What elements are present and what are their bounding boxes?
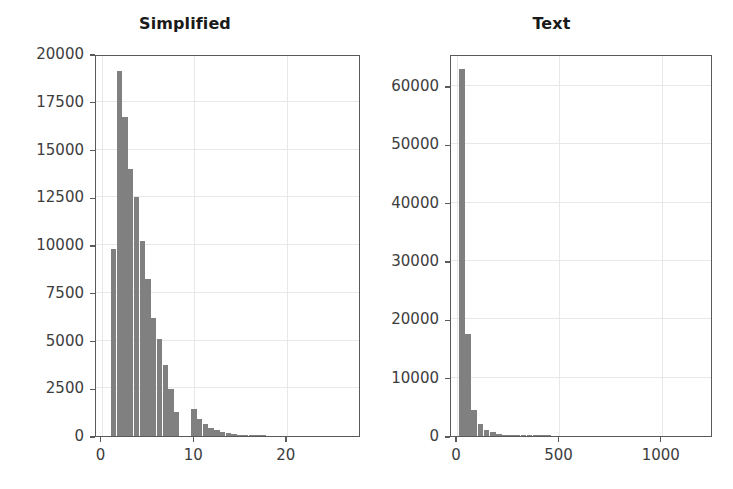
histogram-bar xyxy=(249,435,254,436)
y-tick-mark xyxy=(445,261,450,262)
histogram-bar xyxy=(191,409,196,436)
histogram-figure: Simplified 02500500075001000012500150001… xyxy=(0,0,733,489)
histogram-bar xyxy=(243,435,248,436)
y-tick-label: 10000 xyxy=(370,371,439,386)
y-tick-label: 2500 xyxy=(0,381,84,396)
histogram-bar xyxy=(231,434,236,436)
y-tick-label: 15000 xyxy=(0,143,84,158)
histogram-bar xyxy=(151,318,156,436)
y-tick-mark xyxy=(445,436,450,437)
chart-title-text: Text xyxy=(370,14,733,33)
histogram-bar xyxy=(214,430,219,436)
y-tick-label: 10000 xyxy=(0,238,84,253)
histogram-bar xyxy=(163,365,168,436)
histogram-bar xyxy=(203,424,208,436)
y-tick-mark xyxy=(445,320,450,321)
histogram-bar xyxy=(484,430,490,436)
histogram-bar xyxy=(508,435,514,436)
y-tick-mark xyxy=(445,378,450,379)
histogram-bar xyxy=(111,249,116,436)
bar-series-simplified xyxy=(96,56,359,436)
plot-area-simplified xyxy=(95,55,360,437)
histogram-bar xyxy=(533,435,539,436)
y-tick-label: 20000 xyxy=(0,47,84,62)
histogram-bar xyxy=(128,169,133,436)
bar-series-text xyxy=(451,56,711,436)
histogram-bar xyxy=(220,432,225,436)
histogram-bar xyxy=(157,339,162,436)
y-tick-label: 0 xyxy=(370,429,439,444)
histogram-bar xyxy=(254,435,259,436)
y-tick-label: 60000 xyxy=(370,79,439,94)
chart-panel-text: Text 0100002000030000400005000060000 050… xyxy=(370,0,733,489)
y-tick-mark xyxy=(90,102,95,103)
y-tick-mark xyxy=(445,203,450,204)
x-tick-mark xyxy=(100,437,101,442)
histogram-bar xyxy=(208,428,213,436)
x-tick-mark xyxy=(193,437,194,442)
histogram-bar xyxy=(459,69,465,436)
histogram-bar xyxy=(465,334,471,436)
histogram-bar xyxy=(174,412,179,436)
y-tick-label: 7500 xyxy=(0,286,84,301)
histogram-bar xyxy=(117,71,122,436)
histogram-bar xyxy=(490,432,496,436)
chart-panel-simplified: Simplified 02500500075001000012500150001… xyxy=(0,0,370,489)
y-tick-label: 40000 xyxy=(370,196,439,211)
histogram-bar xyxy=(168,389,173,436)
y-tick-mark xyxy=(90,436,95,437)
histogram-bar xyxy=(514,435,520,436)
y-tick-label: 12500 xyxy=(0,190,84,205)
histogram-bar xyxy=(478,424,484,436)
y-tick-mark xyxy=(90,150,95,151)
histogram-bar xyxy=(145,279,150,436)
histogram-bar xyxy=(471,410,477,436)
y-tick-mark xyxy=(90,341,95,342)
histogram-bar xyxy=(197,419,202,436)
y-tick-label: 20000 xyxy=(370,312,439,327)
chart-title-simplified: Simplified xyxy=(0,14,370,33)
histogram-bar xyxy=(134,197,139,436)
y-tick-mark xyxy=(90,245,95,246)
x-tick-label: 10 xyxy=(153,448,233,463)
histogram-bar xyxy=(237,435,242,436)
y-tick-mark xyxy=(445,86,450,87)
y-tick-label: 30000 xyxy=(370,254,439,269)
histogram-bar xyxy=(140,241,145,436)
histogram-bar xyxy=(545,435,551,436)
histogram-bar xyxy=(122,117,127,436)
histogram-bar xyxy=(496,434,502,436)
y-tick-mark xyxy=(90,54,95,55)
x-tick-mark xyxy=(455,437,456,442)
y-tick-mark xyxy=(90,198,95,199)
plot-area-text xyxy=(450,55,712,437)
x-tick-label: 0 xyxy=(61,448,141,463)
histogram-bar xyxy=(527,435,533,436)
y-tick-mark xyxy=(90,293,95,294)
y-tick-mark xyxy=(445,145,450,146)
histogram-bar xyxy=(502,435,508,436)
y-tick-mark xyxy=(90,389,95,390)
y-tick-label: 5000 xyxy=(0,334,84,349)
y-tick-label: 17500 xyxy=(0,95,84,110)
histogram-bar xyxy=(539,435,545,436)
x-tick-mark xyxy=(660,437,661,442)
x-tick-label: 0 xyxy=(416,448,496,463)
histogram-bar xyxy=(260,435,265,436)
y-tick-label: 50000 xyxy=(370,137,439,152)
histogram-bar xyxy=(226,433,231,436)
y-tick-label: 0 xyxy=(0,429,84,444)
x-tick-label: 1000 xyxy=(621,448,701,463)
x-tick-mark xyxy=(558,437,559,442)
histogram-bar xyxy=(521,435,527,436)
x-tick-mark xyxy=(285,437,286,442)
x-tick-label: 20 xyxy=(246,448,326,463)
x-tick-label: 500 xyxy=(518,448,598,463)
